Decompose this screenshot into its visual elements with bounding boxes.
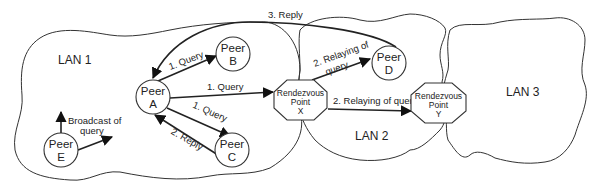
- peer-c: Peer C: [215, 133, 249, 167]
- rendezvous-point-y: Rendezvous Point Y: [411, 83, 466, 123]
- svg-text:3. Reply: 3. Reply: [268, 9, 303, 20]
- lan3-region: LAN 3: [443, 18, 587, 163]
- svg-text:D: D: [385, 64, 393, 76]
- peer-d: Peer D: [372, 46, 406, 80]
- svg-text:C: C: [228, 151, 236, 163]
- svg-text:Peer: Peer: [221, 42, 245, 54]
- svg-text:Peer: Peer: [49, 138, 73, 150]
- svg-text:X: X: [298, 106, 304, 116]
- svg-text:2. Relaying of query: 2. Relaying of query: [333, 95, 418, 106]
- rendezvous-point-x: Rendezvous Point X: [274, 80, 327, 120]
- svg-text:1. Query: 1. Query: [207, 81, 244, 92]
- peer-b: Peer B: [216, 37, 250, 71]
- edge-c-a: 2. Reply: [155, 115, 218, 155]
- peer-e: Peer E: [44, 133, 78, 167]
- svg-text:Peer: Peer: [220, 138, 244, 150]
- peer-a: Peer A: [136, 80, 170, 114]
- svg-text:Y: Y: [436, 109, 442, 119]
- edge-a-x: 1. Query: [170, 81, 273, 98]
- lan1-label: LAN 1: [58, 53, 92, 67]
- edge-x-d: 2. Relaying of query: [312, 38, 371, 80]
- edge-a-b: 1. Query: [158, 48, 216, 81]
- svg-text:E: E: [57, 151, 65, 163]
- lan2-label: LAN 2: [355, 129, 389, 143]
- svg-text:1. Query: 1. Query: [191, 99, 229, 124]
- lan3-label: LAN 3: [506, 85, 540, 99]
- svg-text:B: B: [229, 55, 237, 67]
- svg-text:2. Reply: 2. Reply: [169, 125, 205, 152]
- svg-text:A: A: [149, 98, 157, 110]
- edge-x-y: 2. Relaying of query: [328, 95, 418, 111]
- p2p-query-diagram: LAN 1 LAN 2 LAN 3 1. Query 1. Query 1. Q…: [0, 0, 597, 187]
- svg-text:Peer: Peer: [377, 51, 401, 63]
- svg-text:query: query: [80, 125, 104, 136]
- svg-text:Peer: Peer: [141, 85, 165, 97]
